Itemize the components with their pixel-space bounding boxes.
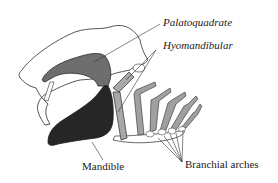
label-mandible: Mandible: [82, 161, 124, 172]
leader-arch-1: [158, 138, 182, 162]
mandible: [48, 86, 113, 145]
leader-arch-3: [170, 134, 182, 162]
ceratohyal: [113, 92, 127, 140]
label-palatoquadrate: Palatoquadrate: [163, 17, 232, 28]
shark-skull-diagram: [0, 0, 278, 183]
branchial-arches: [134, 82, 202, 135]
label-branchial-arches: Branchial arches: [185, 159, 259, 170]
label-hyomandibular: Hyomandibular: [163, 40, 233, 51]
leader-mandible: [92, 142, 103, 160]
